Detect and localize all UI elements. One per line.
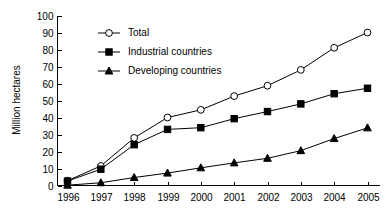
data-point-marker	[264, 108, 270, 114]
x-tick-label: 1996	[57, 192, 80, 203]
y-tick-label: 90	[42, 28, 54, 39]
x-tick-label: 2001	[223, 192, 246, 203]
data-point-marker	[98, 166, 104, 172]
x-tick-label: 2000	[190, 192, 213, 203]
x-tick-label: 1998	[123, 192, 146, 203]
data-point-marker	[131, 142, 137, 148]
y-tick-label: 40	[42, 113, 54, 124]
x-tick-label: 2003	[290, 192, 313, 203]
data-point-marker	[298, 101, 304, 107]
y-tick-label: 70	[42, 62, 54, 73]
data-point-marker	[231, 93, 238, 100]
data-point-marker	[231, 115, 237, 121]
x-tick-label: 2002	[257, 192, 280, 203]
data-point-marker	[164, 114, 171, 121]
data-point-marker	[331, 44, 338, 51]
y-tick-label: 80	[42, 45, 54, 56]
y-tick-label: 50	[42, 96, 54, 107]
data-point-marker	[197, 106, 204, 113]
chart-container: 0102030405060708090100 19961997199819992…	[0, 0, 387, 219]
data-point-marker	[297, 67, 304, 74]
legend-label: Industrial countries	[128, 46, 212, 57]
y-tick-label: 10	[42, 164, 54, 175]
data-point-marker	[331, 91, 337, 97]
y-tick-label: 100	[37, 11, 54, 22]
y-tick-label: 30	[42, 130, 54, 141]
legend-marker-icon	[106, 49, 112, 55]
data-point-marker	[264, 82, 271, 89]
line-chart: 0102030405060708090100 19961997199819992…	[0, 0, 387, 219]
x-tick-label: 2005	[357, 192, 380, 203]
y-tick-label: 20	[42, 147, 54, 158]
data-point-marker	[198, 125, 204, 131]
y-tick-label: 0	[48, 181, 54, 192]
legend-marker-icon	[106, 30, 113, 37]
data-point-marker	[364, 85, 370, 91]
x-tick-label: 1999	[157, 192, 180, 203]
data-point-marker	[164, 126, 170, 132]
x-tick-label: 1997	[90, 192, 113, 203]
data-point-marker	[364, 29, 371, 36]
y-axis-title: Million hectares	[11, 65, 22, 134]
x-tick-label: 2004	[323, 192, 346, 203]
y-tick-label: 60	[42, 79, 54, 90]
legend-label: Developing countries	[128, 65, 221, 76]
data-point-marker	[131, 135, 138, 142]
legend-label: Total	[128, 27, 149, 38]
